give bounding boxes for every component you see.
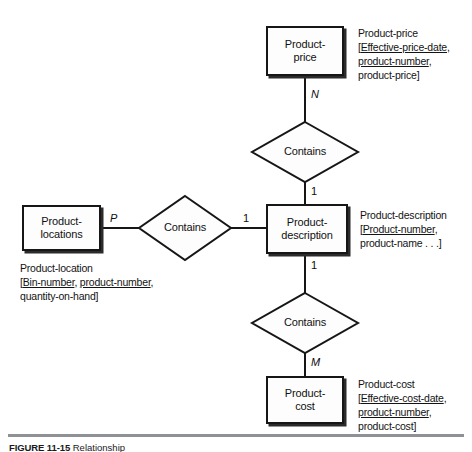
entity-product-description[interactable]: Product- description (266, 204, 348, 254)
annotation-product-location: Product-location [Bin-number, product-nu… (20, 262, 153, 304)
cardinality-price-to-contains: N (311, 88, 319, 100)
entity-product-locations[interactable]: Product- locations (22, 205, 101, 251)
annotation-product-cost-line-1: [Effective-cost-date, (358, 392, 446, 406)
caption-rule (8, 434, 464, 437)
annotation-product-location-line-2: quantity-on-hand] (20, 290, 153, 304)
figure-caption-label: FIGURE 11-15 (9, 442, 70, 452)
annotation-product-cost-title: Product-cost (358, 378, 446, 392)
annotation-product-description-line-2: product-name . . .] (360, 237, 447, 251)
cardinality-left-contains-to-description: 1 (243, 212, 249, 224)
entity-product-price-line2: price (285, 51, 325, 64)
entity-product-cost-line2: cost (285, 400, 325, 413)
figure-caption: FIGURE 11-15 Relationship (9, 442, 125, 452)
entity-product-description-line1: Product- (281, 216, 333, 229)
cardinality-contains-to-cost: M (311, 356, 320, 368)
annotation-product-cost-line-3: product-cost] (358, 420, 446, 434)
annotation-product-description: Product-description [Product-number, pro… (360, 209, 447, 251)
annotation-product-description-line-1: [Product-number, (360, 223, 447, 237)
figure-caption-text: Relationship (73, 442, 125, 452)
entity-product-locations-line1: Product- (40, 215, 82, 228)
annotation-product-price-line-2: product-number, (358, 55, 450, 69)
annotation-product-cost-line-2: product-number, (358, 406, 446, 420)
entity-product-cost[interactable]: Product- cost (266, 376, 344, 424)
cardinality-locations-to-contains: P (110, 212, 117, 224)
entity-product-locations-line2: locations (40, 228, 82, 241)
annotation-product-price-line-3: product-price] (358, 69, 450, 83)
annotation-product-cost: Product-cost [Effective-cost-date, produ… (358, 378, 446, 433)
annotation-product-description-title: Product-description (360, 209, 447, 223)
annotation-product-price-line-1: [Effective-price-date, (358, 41, 450, 55)
relationship-label-contains-left: Contains (138, 221, 232, 233)
entity-product-description-line2: description (281, 229, 333, 242)
cardinality-contains-to-description: 1 (311, 185, 317, 197)
entity-product-price-line1: Product- (285, 38, 325, 51)
relationship-label-contains-bottom: Contains (255, 316, 355, 328)
relationship-label-contains-top: Contains (255, 145, 355, 157)
annotation-product-price: Product-price [Effective-price-date, pro… (358, 27, 450, 82)
cardinality-description-to-contains: 1 (311, 259, 317, 271)
entity-product-price[interactable]: Product- price (266, 26, 344, 76)
annotation-product-price-title: Product-price (358, 27, 450, 41)
annotation-product-location-title: Product-location (20, 262, 153, 276)
entity-product-cost-line1: Product- (285, 387, 325, 400)
er-diagram-figure: Product- price Product- locations Produc… (0, 0, 472, 452)
annotation-product-location-line-1: [Bin-number, product-number, (20, 276, 153, 290)
